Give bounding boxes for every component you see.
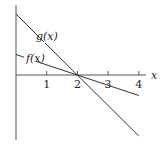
chart: 1 2 3 4 x g(x) f(x) [0,0,166,148]
x-axis-label: x [151,69,158,82]
f-label: f(x) [25,52,45,65]
x-tick-label-1: 1 [43,78,50,91]
f-line-lower [36,61,139,95]
x-tick-label-4: 4 [135,78,142,91]
f-line [16,55,24,58]
g-line-lower [45,43,139,136]
g-label: g(x) [36,30,58,43]
x-tick-label-2: 2 [74,78,81,91]
